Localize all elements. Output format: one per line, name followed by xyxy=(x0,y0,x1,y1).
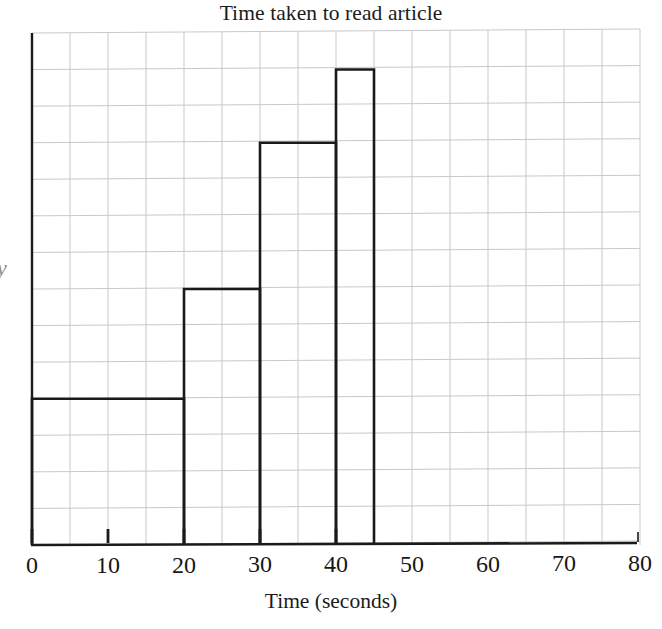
x-axis-line xyxy=(31,543,637,545)
x-tick-label: 80 xyxy=(610,549,662,577)
chart-canvas xyxy=(0,0,662,629)
x-tick-label: 60 xyxy=(458,550,518,578)
axis-ticks xyxy=(32,529,638,543)
chart-figure: Time taken to read article y 01020304050… xyxy=(0,0,662,629)
x-tick-label: 20 xyxy=(154,551,214,579)
x-tick-label: 70 xyxy=(534,549,594,577)
x-tick-label: 50 xyxy=(382,550,442,578)
x-tick-label: 0 xyxy=(2,551,62,579)
x-axis-label: Time (seconds) xyxy=(0,589,662,614)
x-tick-label: 40 xyxy=(306,550,366,578)
x-tick-label: 30 xyxy=(230,550,290,578)
x-tick-label: 10 xyxy=(78,551,138,579)
